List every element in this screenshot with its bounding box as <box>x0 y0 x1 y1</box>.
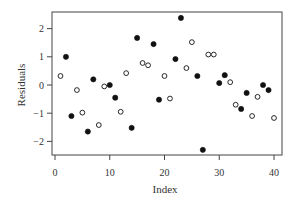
open-point-marker <box>255 94 260 99</box>
filled-point-marker <box>178 15 183 20</box>
filled-point-marker <box>69 113 74 118</box>
y-tick-label: −1 <box>33 108 44 119</box>
open-point-marker <box>58 74 63 79</box>
open-point-marker <box>272 116 277 121</box>
filled-point-marker <box>151 42 156 47</box>
filled-point-marker <box>135 35 140 40</box>
filled-point-marker <box>113 95 118 100</box>
open-point-marker <box>206 52 211 57</box>
open-point-marker <box>146 63 151 68</box>
open-point-marker <box>162 74 167 79</box>
x-tick-label: 30 <box>214 167 224 178</box>
filled-point-marker <box>107 82 112 87</box>
x-tick-label: 10 <box>105 167 115 178</box>
x-axis: 010203040 <box>53 155 280 178</box>
filled-point-marker <box>260 82 265 87</box>
filled-point-marker <box>266 87 271 92</box>
filled-point-marker <box>129 125 134 130</box>
residuals-scatter-chart: −2−1012 010203040 Index Residuals <box>0 0 296 203</box>
open-point-marker <box>140 61 145 66</box>
open-point-marker <box>168 96 173 101</box>
open-point-marker <box>96 123 101 128</box>
open-point-marker <box>228 80 233 85</box>
filled-point-marker <box>156 97 161 102</box>
y-tick-label: 2 <box>39 23 44 34</box>
y-axis-label: Residuals <box>15 64 27 107</box>
filled-point-marker <box>173 56 178 61</box>
open-point-marker <box>233 102 238 107</box>
data-points <box>58 15 276 152</box>
filled-point-marker <box>195 73 200 78</box>
open-point-marker <box>250 114 255 119</box>
open-point-marker <box>124 71 129 76</box>
filled-point-marker <box>200 147 205 152</box>
open-point-marker <box>102 84 107 89</box>
filled-point-marker <box>239 106 244 111</box>
filled-point-marker <box>85 129 90 134</box>
y-axis: −2−1012 <box>33 23 52 147</box>
x-axis-label: Index <box>152 183 178 195</box>
open-point-marker <box>80 110 85 115</box>
open-point-marker <box>189 40 194 45</box>
x-tick-label: 0 <box>53 167 58 178</box>
filled-point-marker <box>222 73 227 78</box>
open-point-marker <box>75 88 80 93</box>
filled-point-marker <box>91 77 96 82</box>
y-tick-label: 1 <box>39 51 44 62</box>
x-tick-label: 20 <box>160 167 170 178</box>
filled-point-marker <box>244 90 249 95</box>
open-point-marker <box>211 52 216 57</box>
filled-point-marker <box>63 54 68 59</box>
filled-point-marker <box>217 80 222 85</box>
y-tick-label: 0 <box>39 80 44 91</box>
x-tick-label: 40 <box>269 167 279 178</box>
open-point-marker <box>118 109 123 114</box>
y-tick-label: −2 <box>33 136 44 147</box>
open-point-marker <box>184 66 189 71</box>
